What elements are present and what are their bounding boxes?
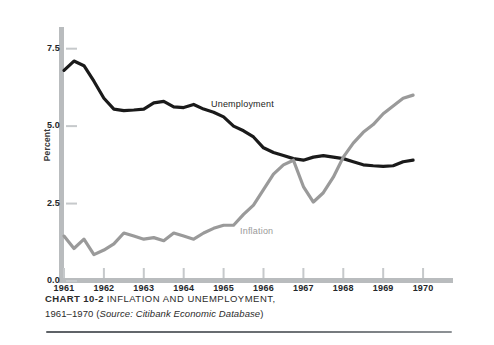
caption-paren-close: ): [260, 308, 263, 319]
y-tick-mark: [66, 203, 77, 205]
series-line-inflation: [64, 95, 413, 255]
footer-rule: [46, 331, 452, 333]
y-tick-label: 5.0: [34, 120, 60, 130]
caption-source-label: Source:: [99, 308, 132, 319]
chart-number: CHART 10-2: [45, 293, 104, 304]
x-tick-mark: [63, 268, 65, 278]
chart-title: INFLATION AND UNEMPLOYMENT,: [107, 293, 276, 304]
caption-source-name: Citibank Economic Database: [136, 308, 261, 319]
x-axis-tick-marks: [63, 268, 424, 278]
y-tick-label: 7.5: [34, 43, 60, 53]
x-tick-mark: [382, 268, 384, 278]
series-label-inflation: Inflation: [240, 226, 273, 236]
y-tick-mark: [66, 280, 77, 282]
x-tick-mark: [103, 268, 105, 278]
y-tick-mark: [66, 125, 77, 127]
x-tick-mark: [223, 268, 225, 278]
chart-caption: CHART 10-2 INFLATION AND UNEMPLOYMENT, 1…: [45, 292, 475, 321]
x-tick-mark: [143, 268, 145, 278]
caption-years: 1961–1970 (: [45, 308, 99, 319]
y-tick-mark: [66, 48, 77, 50]
x-tick-mark: [262, 268, 264, 278]
x-tick-mark: [302, 268, 304, 278]
x-tick-mark: [422, 268, 424, 278]
chart-figure: Percent 0.02.55.07.5 1961196219631964196…: [0, 0, 494, 345]
series-line-unemployment: [64, 61, 413, 166]
series-label-unemployment: Unemployment: [211, 99, 274, 109]
chart-caption-line2: 1961–1970 (Source: Citibank Economic Dat…: [45, 307, 475, 321]
x-tick-mark: [342, 268, 344, 278]
x-tick-mark: [183, 268, 185, 278]
y-tick-label: 2.5: [34, 198, 60, 208]
y-axis-tick-labels: 0.02.55.07.5: [28, 0, 60, 300]
